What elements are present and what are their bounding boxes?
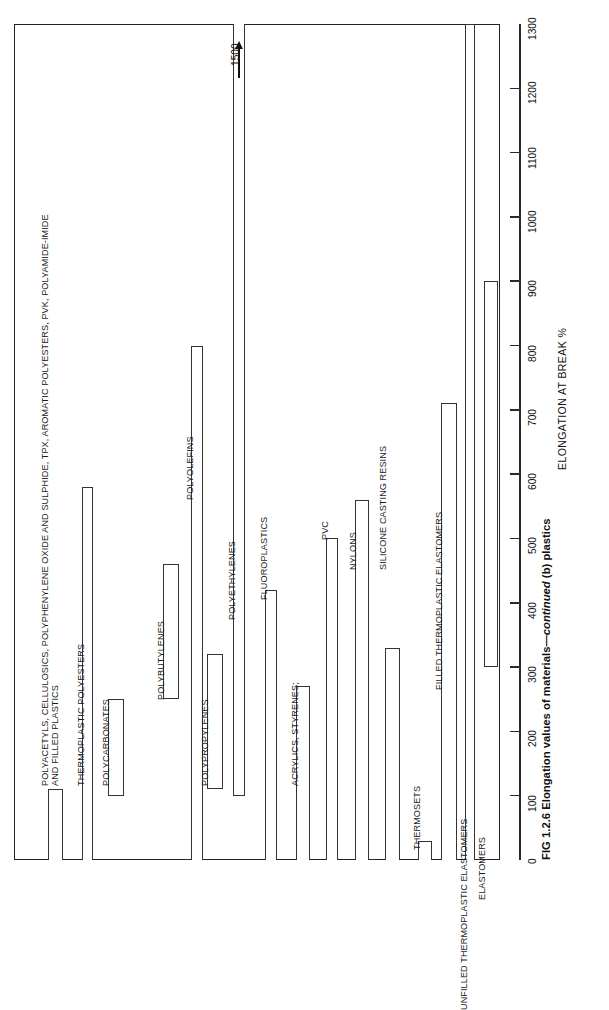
axis-tick: [510, 602, 519, 604]
bar: [484, 281, 498, 667]
bar: [326, 538, 338, 860]
bar-label: POLYETHYLENES: [227, 541, 237, 620]
bar-label: THERMOPLASTIC POLYESTERS: [76, 644, 86, 786]
axis-tick: [510, 345, 519, 347]
bar-label: POLYCARBONATES: [101, 699, 111, 786]
bar-label: ACRYLICS, STYRENES;: [290, 682, 300, 786]
caption-prefix: FIG 1.2.6 Elongation values of materials…: [540, 635, 552, 860]
bar: [48, 789, 63, 860]
axis-title: ELONGATION AT BREAK %: [556, 328, 568, 470]
axis-tick: [510, 538, 519, 540]
axis-tick: [510, 666, 519, 668]
bar: [465, 24, 475, 860]
axis-tick: [510, 409, 519, 411]
bar-label: THERMOSETS: [412, 786, 422, 850]
caption-suffix: (b) plastics: [540, 518, 552, 581]
axis-tick: [510, 731, 519, 733]
axis-tick-label: 300: [527, 666, 538, 683]
axis-tick: [510, 473, 519, 475]
axis-tick-label: 600: [527, 473, 538, 490]
bar: [385, 648, 400, 860]
bar-label: SILICONE CASTING RESINS: [378, 446, 388, 570]
bar-label: POLYOLEFINS: [185, 436, 195, 500]
bar-label: UNFILLED THERMOPLASTIC ELASTOMERS: [459, 819, 469, 1010]
value-axis: [519, 24, 521, 860]
axis-tick-label: 100: [527, 795, 538, 812]
bar-label: FILLED THERMOPLASTIC ELASTOMERS: [434, 512, 444, 690]
bar: [233, 24, 245, 796]
axis-tick-label: 0: [527, 858, 538, 864]
bar-label: PVC: [320, 521, 330, 540]
bar-label: POLYBUTYLENES: [156, 621, 166, 700]
bar: [265, 590, 277, 860]
bar-label: POLYACETYLS, CELLULOSICS, POLYPHENYLENE …: [40, 214, 60, 786]
axis-tick: [510, 280, 519, 282]
figure-caption: FIG 1.2.6 Elongation values of materials…: [540, 518, 552, 860]
axis-tick-label: 1200: [527, 82, 538, 105]
axis-tick-label: 1300: [527, 17, 538, 40]
axis-tick-label: 1100: [527, 147, 538, 169]
bar-label: NYLONS: [348, 532, 358, 570]
axis-tick-label: 400: [527, 602, 538, 619]
axis-tick-label: 200: [527, 730, 538, 747]
axis-tick-label: 500: [527, 537, 538, 554]
bar-label: ELASTOMERS: [477, 837, 487, 900]
axis-tick-label: 1000: [527, 210, 538, 233]
axis-tick: [510, 795, 519, 797]
axis-tick-label: 800: [527, 345, 538, 362]
axis-tick: [510, 88, 519, 90]
bar-label: POLYPROPYLENES: [200, 699, 210, 786]
axis-tick: [510, 152, 519, 154]
bar-label: FLUOROPLASTICS: [259, 517, 269, 600]
axis-tick-label: 700: [527, 409, 538, 426]
axis-tick-label: 900: [527, 280, 538, 297]
axis-tick: [510, 216, 519, 218]
caption-italic: continued: [540, 581, 552, 635]
overflow-value-label: 1500: [230, 43, 241, 66]
